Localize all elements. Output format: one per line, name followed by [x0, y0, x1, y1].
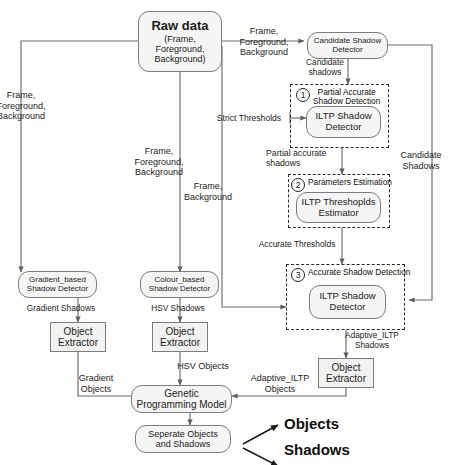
node-object-extractor-ilpt[interactable]: Object Extractor [318, 358, 374, 388]
edge-label-gradient-shadows: Gradient Shadows [16, 304, 106, 314]
edge-rawdata-to-accurate [222, 46, 286, 307]
node-ilpt-thresholds-estimator[interactable]: ILTP Threshoplds Estimator [296, 192, 381, 223]
edge-label-strict-thresholds: Strict Thresholds [208, 113, 290, 123]
edge-label-to-candidate: Frame, Foreground, Background [228, 26, 300, 58]
group-number-2-icon: 2 [291, 178, 305, 192]
edge-label-accurate-thresholds: Accurate Thresholds [254, 240, 340, 250]
terminal-objects: Objects [284, 415, 339, 432]
flowchart-canvas: 1 Partial Accurate Shadow Detection 2 Pa… [0, 0, 467, 465]
node-separate-objects-and-shadows[interactable]: Seperate Objects and Shadows [135, 425, 231, 453]
edge-rawdata-to-gradient [21, 41, 138, 272]
group-title-1: 1 Partial Accurate Shadow Detection [296, 88, 386, 107]
group-label-2: Parameters Estimation [308, 178, 392, 187]
edge-label-gradient-objects: Gradient Objects [64, 373, 128, 394]
node-ilpt-shadow-detector-1[interactable]: ILTP Shadow Detector [306, 106, 381, 138]
edge-label-frame-background: Frame, Background [176, 181, 240, 202]
group-number-3-icon: 3 [291, 268, 305, 282]
edge-label-partial-accurate-shadows: Partial accurate shadows [266, 148, 340, 169]
edge-to-objects [243, 425, 278, 444]
group-title-2: 2 Parameters Estimation [291, 178, 389, 192]
edge-label-adaptive-ilpt-shadows: Adaptive_ILTP Shadows [336, 331, 408, 351]
edge-candidate-shadows-right [388, 45, 432, 300]
node-genetic-programming-model[interactable]: Genetic Programming Model [131, 385, 232, 413]
edge-label-hsv-objects: HSV Objects [164, 361, 242, 372]
edge-label-left-branch: Frame, Foreground, Background [0, 90, 56, 122]
node-ilpt-shadow-detector-3[interactable]: ILTP Shadow Detector [309, 285, 386, 319]
edge-label-mid-branch: Frame, Foreground, Background [124, 146, 194, 178]
connector-layer [0, 0, 467, 465]
group-label-1: Partial Accurate Shadow Detection [313, 88, 380, 107]
group-label-3: Accurate Shadow Detection [308, 268, 410, 277]
node-gradient-based-shadow-detector[interactable]: Gradient_based Shadow Detector [18, 271, 97, 298]
group-number-1-icon: 1 [296, 88, 310, 102]
group-title-3: 3 Accurate Shadow Detection [291, 268, 403, 282]
node-object-extractor-hsv[interactable]: Object Extractor [152, 322, 208, 352]
node-object-extractor-gradient[interactable]: Object Extractor [50, 322, 106, 352]
node-colour-based-shadow-detector[interactable]: Colour_based Shadow Detector [140, 271, 219, 298]
terminal-shadows: Shadows [284, 441, 350, 458]
edge-label-candidate-shadows-right: Candidate Shadows [390, 150, 452, 171]
edge-label-hsv-shadows: HSV Shadows [138, 304, 218, 314]
edge-label-candidate-shadows: Candidate shadows [298, 58, 352, 78]
edge-label-adaptive-ilpt-objects: Adaptive_ILTP Objects [241, 373, 319, 394]
node-candidate-shadow-detector[interactable]: Candidate Shadow Detector [307, 32, 388, 59]
edge-to-shadows [243, 448, 278, 465]
node-raw-data[interactable]: Raw data (Frame, Foreground, Background) [138, 11, 222, 72]
